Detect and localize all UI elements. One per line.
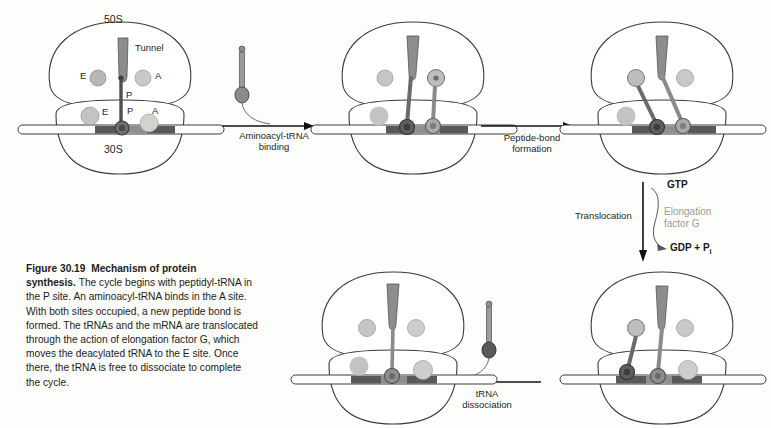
small-subunit-30s <box>598 100 726 174</box>
efg-line2: factor G <box>664 218 711 230</box>
codon-e <box>351 376 381 384</box>
figure-caption-body: The cycle begins with peptidyl-tRNA in t… <box>26 277 258 387</box>
gtp-label: GTP <box>667 179 688 190</box>
site-circle-small-a <box>679 361 698 380</box>
panel-post-translocation <box>552 258 771 428</box>
site-circle-small-a <box>414 361 433 380</box>
label-small-e: E <box>102 106 108 117</box>
panel-after-dissociation <box>283 258 513 428</box>
ribosome-diagram-1 <box>10 8 240 183</box>
ribosome-diagram-4 <box>552 258 771 428</box>
free-aminoacyl-trna <box>235 46 270 124</box>
figure-caption: Figure 30.19 Mechanism of protein synthe… <box>26 262 258 390</box>
label-large-a: A <box>155 70 161 81</box>
site-circle-large-a <box>677 320 694 337</box>
codon-a <box>440 126 468 134</box>
site-circle-small-e <box>350 357 369 376</box>
gdp-pi-text: GDP + P <box>670 242 710 253</box>
site-circle-large-a <box>135 70 151 86</box>
label-50s: 50S <box>104 13 123 25</box>
codon-a <box>688 126 716 134</box>
small-subunit-30s <box>349 100 477 174</box>
exit-tunnel <box>118 38 128 82</box>
site-circle-large-e <box>377 70 393 86</box>
site-circle-small-e <box>81 107 99 125</box>
efg-line1: Elongation <box>664 206 711 218</box>
site-circle-large-e <box>359 320 376 337</box>
pi-subscript: i <box>710 247 712 256</box>
site-circle-large-a <box>677 70 694 87</box>
step-arrow-translocation: Translocation GTP Elongation factor G GD… <box>575 178 760 268</box>
small-subunit-30s <box>598 350 726 424</box>
site-circle-small-e <box>617 107 636 126</box>
site-circle-small-a <box>140 114 158 132</box>
gdp-pi-label: GDP + Pi <box>670 242 712 256</box>
label-large-p: P <box>126 89 132 100</box>
label-small-p: P <box>127 105 133 116</box>
label-30s: 30S <box>104 143 123 155</box>
elongation-factor-g-label: Elongation factor G <box>664 206 711 229</box>
cofactor-arrow-head <box>657 244 667 251</box>
cofactor-curve <box>651 188 663 248</box>
translocation-label: Translocation <box>575 210 632 221</box>
site-circle-large-e <box>90 70 106 86</box>
panel-peptide-bond-formed <box>552 8 771 183</box>
ribosome-diagram-5 <box>283 258 513 428</box>
ribosome-diagram-3 <box>552 8 771 183</box>
label-large-e: E <box>80 70 86 81</box>
panel-initial-state: 50S 30S Tunnel E A P E P A <box>10 8 240 183</box>
site-circle-large-a <box>408 320 425 337</box>
label-tunnel: Tunnel <box>135 42 164 53</box>
site-circle-small-e <box>370 107 389 126</box>
figure-number: Figure 30.19 <box>26 263 85 274</box>
label-small-a: A <box>152 105 158 116</box>
